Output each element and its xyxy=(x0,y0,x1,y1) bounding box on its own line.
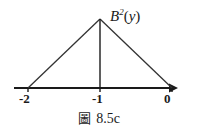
function-label: B2(y) xyxy=(110,8,140,24)
figure-caption-symbol: 圖 xyxy=(78,111,91,126)
curve-right-slope xyxy=(100,19,172,88)
x-axis-tick-label-minus2: -2 xyxy=(19,92,30,105)
x-axis-tick-label-zero: 0 xyxy=(164,92,171,105)
figure-caption: 圖8.5c xyxy=(0,112,198,126)
function-label-base: B xyxy=(110,8,119,24)
x-axis-tick-label-minus1: -1 xyxy=(92,92,103,105)
figure-caption-number: 8.5c xyxy=(96,111,120,126)
curve-left-slope xyxy=(28,19,100,88)
function-label-paren-close: ) xyxy=(135,8,140,24)
figure-container: -2 -1 0 B2(y) 圖8.5c xyxy=(0,0,198,136)
